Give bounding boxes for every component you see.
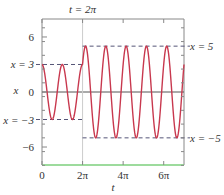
y-tick-label: 0: [29, 86, 35, 98]
reference-label: x = −3: [2, 114, 34, 126]
y-tick-label: −6: [22, 141, 34, 153]
y-axis-label: x: [13, 84, 19, 96]
x-tick-label: 6π: [158, 169, 170, 181]
chart: x = 3x = −3x = 5x = −502π4π6π60−6txt = 2…: [0, 0, 224, 195]
x-axis-label: t: [111, 181, 115, 193]
x-tick-label: 2π: [77, 169, 89, 181]
top-annotation: t = 2π: [69, 3, 96, 15]
reference-label: x = 3: [10, 58, 35, 70]
x-tick-label: 4π: [118, 169, 130, 181]
plot-frame: [42, 19, 184, 165]
x-tick-label: 0: [39, 169, 45, 181]
reference-label: x = −5: [189, 132, 221, 144]
y-tick-label: 6: [29, 31, 35, 43]
reference-label: x = 5: [189, 40, 214, 52]
